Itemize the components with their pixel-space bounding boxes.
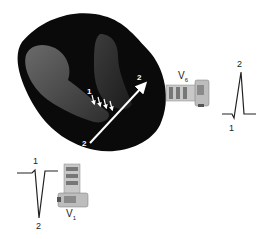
v6-waveform	[222, 72, 256, 118]
v1-waveform	[17, 170, 58, 218]
vector-end-label: 2	[137, 74, 141, 82]
v6-trough-label: 1	[229, 124, 234, 133]
v1-peak-label: 1	[33, 157, 38, 166]
v6-peak-label: 2	[237, 60, 242, 69]
lead-v6-name: V	[178, 70, 185, 81]
lead-v1-label: V1	[66, 209, 76, 221]
v1-trough-label: 2	[36, 222, 41, 231]
lead-v1-name: V	[66, 208, 73, 219]
lead-v1-subscript: 1	[73, 215, 76, 221]
vector-start-label: 2	[82, 140, 86, 148]
lead-v6-subscript: 6	[185, 77, 188, 83]
lead-v6-label: V6	[178, 71, 188, 83]
diagram-canvas	[0, 0, 263, 239]
heart	[18, 13, 166, 151]
camera-v1-icon	[57, 164, 88, 207]
depolarization-label: 1	[87, 88, 91, 96]
camera-v6-icon	[166, 80, 209, 107]
